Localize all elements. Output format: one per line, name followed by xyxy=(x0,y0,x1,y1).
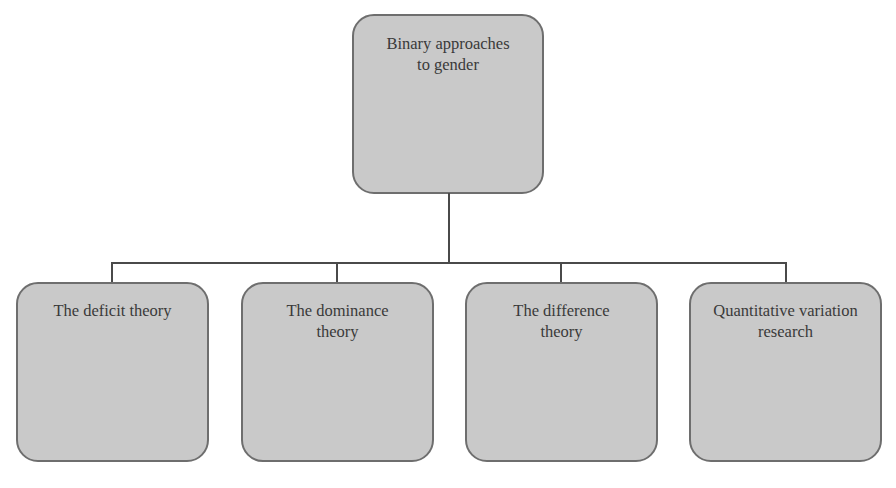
child-node-deficit-theory: The deficit theory xyxy=(16,282,209,462)
connector-drop-4 xyxy=(785,262,787,283)
child-node-quantitative-variation-research: Quantitative variation research xyxy=(689,282,882,462)
connector-drop-1 xyxy=(111,262,113,283)
connector-root-vertical xyxy=(448,193,450,264)
connector-drop-2 xyxy=(336,262,338,283)
child-node-dominance-theory: The dominance theory xyxy=(241,282,434,462)
child-node-label: The difference theory xyxy=(492,300,632,342)
child-node-label: The dominance theory xyxy=(268,300,408,342)
child-node-label: Quantitative variation research xyxy=(711,300,861,342)
root-node-label: Binary approaches to gender xyxy=(383,33,513,75)
root-node-binary-approaches: Binary approaches to gender xyxy=(352,14,544,194)
child-node-difference-theory: The difference theory xyxy=(465,282,658,462)
child-node-label: The deficit theory xyxy=(53,301,171,320)
connector-horizontal-bar xyxy=(111,262,787,264)
connector-drop-3 xyxy=(560,262,562,283)
